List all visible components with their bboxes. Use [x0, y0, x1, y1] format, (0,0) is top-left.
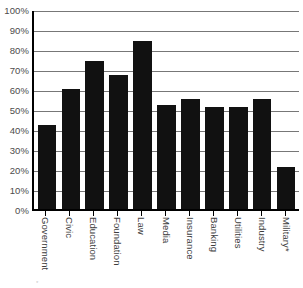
x-axis-category-label: Media [161, 217, 171, 243]
x-axis-tick [57, 211, 81, 216]
bars-container [34, 11, 299, 209]
tick-mark [141, 211, 142, 216]
tick-mark [237, 211, 238, 216]
bar[interactable] [38, 125, 57, 209]
bar-slot [226, 11, 250, 209]
tick-mark [45, 211, 46, 216]
bar-slot [250, 11, 274, 209]
bar[interactable] [62, 89, 81, 209]
bar[interactable] [85, 61, 104, 209]
x-axis-ticks [32, 211, 299, 216]
x-axis-tick [202, 211, 226, 216]
y-axis-tick-label: 50% [10, 106, 29, 116]
y-axis-tick-label: 90% [10, 26, 29, 36]
x-axis-category-label: Civic [64, 217, 74, 238]
bar[interactable] [253, 99, 272, 209]
x-axis-category-label: Law [136, 217, 146, 235]
x-axis-label-slot: Government [33, 217, 57, 283]
y-axis: 100%90%80%70%60%50%40%30%20%10%0% [0, 0, 31, 216]
y-axis-tick-label: 0% [15, 206, 29, 216]
y-axis-tick-label: 70% [10, 66, 29, 76]
y-axis-tick-label: 30% [10, 146, 29, 156]
bar-slot [59, 11, 83, 209]
x-axis-category-label: Foundation [112, 217, 122, 266]
y-axis-tick-label: 60% [10, 86, 29, 96]
x-axis-category-label: Insurance [185, 217, 195, 260]
x-axis-label-slot: Insurance [178, 217, 202, 283]
x-axis-label-slot: Industry [250, 217, 274, 283]
x-axis-tick [129, 211, 153, 216]
x-axis-tick [226, 211, 250, 216]
x-axis-category-label: Banking [209, 217, 219, 252]
y-axis-tick-label: 100% [4, 6, 29, 16]
x-axis-tick [250, 211, 274, 216]
bar-slot [35, 11, 59, 209]
x-axis-tick [105, 211, 129, 216]
y-axis-tick-label: 40% [10, 126, 29, 136]
x-axis-tick [33, 211, 57, 216]
x-axis-label-slot: Military* [274, 217, 298, 283]
bar-slot [155, 11, 179, 209]
tick-mark [213, 211, 214, 216]
y-axis-tick-label: 80% [10, 46, 29, 56]
y-axis-tick-label: 10% [10, 186, 29, 196]
bar-slot [107, 11, 131, 209]
x-axis-label-slot: Utilities [226, 217, 250, 283]
bar-slot [178, 11, 202, 209]
x-axis-tick [274, 211, 298, 216]
bar[interactable] [109, 75, 128, 209]
bar-slot [274, 11, 298, 209]
x-axis-labels: GovernmentCivicEducationFoundationLawMed… [32, 217, 299, 283]
x-axis-category-label: Military* [281, 217, 291, 252]
tick-mark [165, 211, 166, 216]
bar[interactable] [157, 105, 176, 209]
bar-slot [131, 11, 155, 209]
bar-slot [202, 11, 226, 209]
x-axis-category-label: Industry [257, 217, 267, 252]
x-axis-category-label: Education [88, 217, 98, 260]
bar[interactable] [205, 107, 224, 209]
bar-chart: 100%90%80%70%60%50%40%30%20%10%0% Govern… [0, 0, 303, 288]
bar[interactable] [277, 167, 296, 209]
tick-mark [93, 211, 94, 216]
chart-footnote: * [36, 279, 296, 288]
x-axis-label-slot: Foundation [105, 217, 129, 283]
x-axis-tick [178, 211, 202, 216]
x-axis-label-slot: Banking [202, 217, 226, 283]
x-axis-label-slot: Civic [57, 217, 81, 283]
tick-mark [261, 211, 262, 216]
tick-mark [69, 211, 70, 216]
plot-area [32, 11, 299, 211]
bar[interactable] [181, 99, 200, 209]
x-axis-tick [81, 211, 105, 216]
x-axis-label-slot: Education [81, 217, 105, 283]
x-axis-label-slot: Law [129, 217, 153, 283]
tick-mark [117, 211, 118, 216]
x-axis-category-label: Government [40, 217, 50, 270]
bar[interactable] [229, 107, 248, 209]
bar[interactable] [133, 41, 152, 209]
x-axis-tick [153, 211, 177, 216]
bar-slot [83, 11, 107, 209]
tick-mark [285, 211, 286, 216]
x-axis-label-slot: Media [153, 217, 177, 283]
tick-mark [189, 211, 190, 216]
y-axis-tick-label: 20% [10, 166, 29, 176]
x-axis-category-label: Utilities [233, 217, 243, 249]
